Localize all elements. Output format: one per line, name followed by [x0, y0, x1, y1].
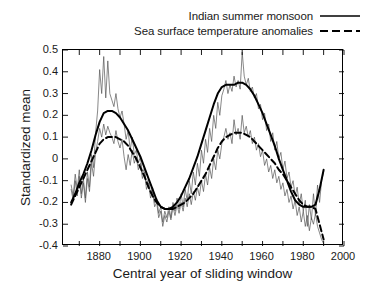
plot-area: [62, 49, 343, 245]
chart-legend: Indian summer monsoon Sea surface temper…: [134, 8, 361, 38]
x-axis-title: Central year of sliding window: [62, 266, 343, 281]
y-axis-title: Standardized mean: [18, 48, 33, 248]
y-tick-label: 0: [52, 152, 58, 164]
x-tick-label: 2000: [331, 250, 355, 262]
y-tick-label: -0.2: [39, 195, 58, 207]
x-tick-label: 1880: [86, 250, 110, 262]
axis-ticks: [63, 50, 344, 246]
y-tick-label: 0.5: [43, 43, 58, 55]
y-tick-label: 0.2: [43, 108, 58, 120]
y-tick-label: -0.3: [39, 217, 58, 229]
chart-figure: Indian summer monsoon Sea surface temper…: [0, 0, 367, 302]
x-tick-label: 1900: [127, 250, 151, 262]
y-tick-label: 0.4: [43, 65, 58, 77]
x-tick-label: 1920: [168, 250, 192, 262]
legend-label-sst: Sea surface temperature anomalies: [134, 25, 313, 37]
legend-key-dashed-line-icon: [319, 26, 361, 36]
legend-label-monsoon: Indian summer monsoon: [189, 10, 313, 22]
x-tick-label: 1960: [249, 250, 273, 262]
legend-item-sst: Sea surface temperature anomalies: [134, 23, 361, 38]
y-tick-label: -0.1: [39, 174, 58, 186]
x-tick-label: 1940: [209, 250, 233, 262]
legend-key-solid-line-icon: [319, 11, 361, 21]
y-tick-label: -0.4: [39, 239, 58, 251]
legend-item-monsoon: Indian summer monsoon: [134, 8, 361, 23]
x-tick-label: 1980: [290, 250, 314, 262]
y-tick-label: 0.3: [43, 87, 58, 99]
y-tick-label: 0.1: [43, 130, 58, 142]
